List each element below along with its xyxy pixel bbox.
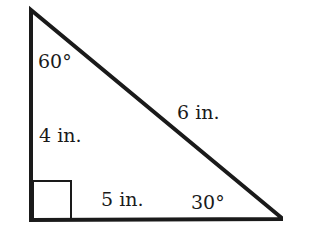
left-side-label: 4 in. bbox=[39, 126, 81, 145]
right-angle-marker bbox=[33, 181, 71, 219]
bottom-right-angle-label: 30° bbox=[191, 193, 225, 212]
top-angle-label: 60° bbox=[38, 52, 72, 71]
triangle-shape bbox=[31, 10, 283, 220]
bottom-side-label: 5 in. bbox=[101, 190, 143, 209]
hypotenuse-label: 6 in. bbox=[177, 103, 219, 122]
